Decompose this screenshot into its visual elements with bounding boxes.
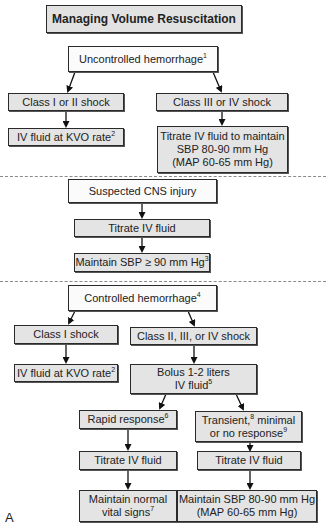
node-label-line1: Titrate IV fluid to maintain bbox=[160, 130, 284, 143]
node-label-line2-wrap: IV fluid5 bbox=[175, 379, 213, 392]
node-label-line2-wrap: vital signs7 bbox=[102, 506, 154, 519]
node-label-line2: IV fluid bbox=[175, 379, 209, 391]
node-label-line1: Maintain normal bbox=[89, 493, 167, 506]
titrate-iv-fluid-rapid-node: Titrate IV fluid bbox=[79, 451, 177, 470]
footnote-ref: 1 bbox=[203, 52, 207, 59]
node-label: Class I shock bbox=[33, 328, 98, 341]
node-label: IV fluid at KVO rate bbox=[17, 131, 111, 143]
bolus-iv-fluid-node: Bolus 1-2 liters IV fluid5 bbox=[130, 364, 257, 394]
node-label: Controlled hemorrhage bbox=[84, 292, 197, 304]
node-text: IV fluid at KVO rate2 bbox=[17, 131, 115, 144]
node-label: Class III or IV shock bbox=[173, 96, 271, 109]
footnote-ref: 3 bbox=[205, 255, 209, 262]
node-text: Controlled hemorrhage4 bbox=[84, 292, 200, 305]
node-label-line1a: Transient, bbox=[202, 414, 251, 426]
class-2-3-4-shock-node: Class II, III, or IV shock bbox=[130, 327, 257, 345]
node-text: IV fluid at KVO rate2 bbox=[17, 367, 115, 380]
node-label-line2: SBP 80-90 mm Hg bbox=[177, 143, 269, 156]
node-label: Titrate IV fluid bbox=[215, 454, 282, 467]
node-label: Uncontrolled hemorrhage bbox=[79, 53, 203, 65]
node-label-line2: vital signs bbox=[102, 506, 150, 518]
section-divider-1 bbox=[0, 176, 326, 177]
node-text: Rapid response6 bbox=[88, 413, 169, 426]
node-label-line1b: minimal bbox=[254, 414, 295, 426]
node-label: Suspected CNS injury bbox=[89, 185, 197, 198]
node-text: Maintain SBP ≥ 90 mm Hg3 bbox=[75, 256, 208, 269]
footnote-ref: 4 bbox=[197, 291, 201, 298]
node-label: Class II, III, or IV shock bbox=[137, 330, 250, 343]
class-1-2-shock-node: Class I or II shock bbox=[8, 93, 124, 111]
footnote-ref: 2 bbox=[111, 366, 115, 373]
uncontrolled-hemorrhage-node: Uncontrolled hemorrhage1 bbox=[68, 46, 218, 72]
node-label-line1: Bolus 1-2 liters bbox=[157, 366, 230, 379]
footnote-ref: 2 bbox=[111, 130, 115, 137]
node-label-line2-wrap: or no response9 bbox=[210, 427, 287, 440]
figure-label: A bbox=[5, 510, 14, 525]
class-3-4-shock-node: Class III or IV shock bbox=[156, 93, 288, 111]
maintain-normal-vitals-node: Maintain normal vital signs7 bbox=[79, 490, 177, 522]
diagram-title-text: Managing Volume Resuscitation bbox=[52, 13, 236, 26]
footnote-ref: 9 bbox=[283, 426, 287, 433]
node-label-line1-wrap: Transient,8 minimal bbox=[202, 414, 295, 427]
node-text: Uncontrolled hemorrhage1 bbox=[79, 53, 207, 66]
footnote-ref: 6 bbox=[165, 412, 169, 419]
node-label-line2: or no response bbox=[210, 427, 283, 439]
maintain-sbp-80-90-node: Maintain SBP 80-90 mm Hg (MAP 60-65 mm H… bbox=[177, 490, 317, 522]
node-label: Rapid response bbox=[88, 413, 165, 425]
node-label-line2: (MAP 60-65 mm Hg) bbox=[197, 506, 298, 519]
node-label: Class I or II shock bbox=[22, 96, 109, 109]
footnote-ref: 7 bbox=[150, 505, 154, 512]
section-divider-2 bbox=[0, 281, 326, 282]
node-label-line3: (MAP 60-65 mm Hg) bbox=[172, 156, 273, 169]
iv-fluid-kvo-node-2: IV fluid at KVO rate2 bbox=[14, 364, 118, 382]
class-1-shock-node: Class I shock bbox=[14, 325, 118, 344]
suspected-cns-injury-node: Suspected CNS injury bbox=[68, 179, 217, 203]
node-label: Maintain SBP ≥ 90 mm Hg bbox=[75, 256, 204, 268]
titrate-iv-fluid-cns-node: Titrate IV fluid bbox=[74, 219, 210, 237]
titrate-to-sbp-node: Titrate IV fluid to maintain SBP 80-90 m… bbox=[157, 126, 288, 173]
rapid-response-node: Rapid response6 bbox=[79, 410, 177, 429]
node-label: Titrate IV fluid bbox=[108, 222, 175, 235]
footnote-ref: 5 bbox=[208, 378, 212, 385]
maintain-sbp-90-node: Maintain SBP ≥ 90 mm Hg3 bbox=[74, 253, 210, 272]
transient-response-node: Transient,8 minimal or no response9 bbox=[195, 411, 302, 442]
node-label: IV fluid at KVO rate bbox=[17, 367, 111, 379]
node-label: Titrate IV fluid bbox=[94, 454, 161, 467]
titrate-iv-fluid-transient-node: Titrate IV fluid bbox=[197, 451, 301, 470]
controlled-hemorrhage-node: Controlled hemorrhage4 bbox=[68, 285, 217, 311]
diagram-title: Managing Volume Resuscitation bbox=[46, 5, 242, 33]
iv-fluid-kvo-node: IV fluid at KVO rate2 bbox=[8, 128, 124, 146]
node-label-line1: Maintain SBP 80-90 mm Hg bbox=[179, 493, 315, 506]
